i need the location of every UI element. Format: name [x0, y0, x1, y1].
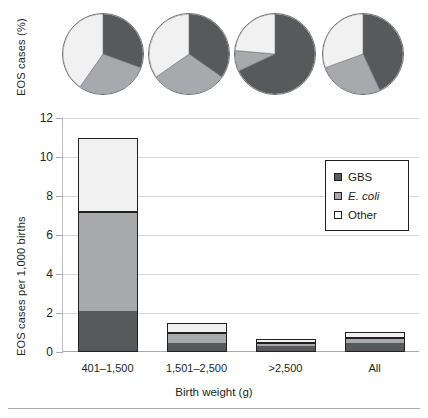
- x-tick-label: All: [368, 362, 380, 374]
- y-tick-label-6: 6: [46, 228, 53, 242]
- bar-stack: 1,501–2,500: [167, 323, 227, 352]
- bar-segment-other: [168, 324, 226, 333]
- bar-segment-gbs: [346, 343, 404, 351]
- x-tick-label: 1,501–2,500: [166, 362, 227, 374]
- bar-segment-ecoli: [168, 333, 226, 343]
- legend-label-gbs: GBS: [348, 171, 372, 183]
- legend-swatch-gbs: [334, 173, 342, 181]
- bar-chart-plot: 024681012 401–1,5001,501–2,500>2,500All: [62, 118, 419, 352]
- footer-rule: [8, 408, 420, 409]
- y-tick-label-12: 12: [40, 111, 53, 125]
- x-tick-label: >2,500: [269, 362, 303, 374]
- bar-stack: >2,500: [256, 339, 316, 352]
- x-tick-label: 401–1,500: [82, 362, 134, 374]
- y-tick-10: [56, 157, 63, 158]
- legend: GBSE. coliOther: [325, 160, 409, 231]
- bar-segment-gbs: [168, 343, 226, 351]
- bar-y-axis-title: EOS cases per 1,000 births: [15, 216, 27, 356]
- bar-stack: All: [345, 332, 405, 352]
- pie-slice-other: [235, 14, 275, 54]
- bar-segment-gbs: [257, 346, 315, 351]
- y-tick-label-10: 10: [40, 150, 53, 164]
- legend-item-gbs: GBS: [334, 167, 402, 186]
- legend-item-ecoli: E. coli: [334, 186, 402, 205]
- y-tick-12: [56, 118, 63, 119]
- pie-chart-row: [58, 10, 418, 100]
- bar-x-axis-title: Birth weight (g): [0, 386, 428, 398]
- legend-label-ecoli: E. coli: [348, 190, 379, 202]
- pie-chart-3: [322, 13, 404, 95]
- y-tick-2: [56, 313, 63, 314]
- legend-swatch-ecoli: [334, 192, 342, 200]
- legend-label-other: Other: [348, 209, 377, 221]
- pie-svg: [323, 14, 403, 94]
- legend-item-other: Other: [334, 205, 402, 224]
- pie-axis-title: EOS cases (%): [15, 18, 27, 96]
- y-tick-label-2: 2: [46, 306, 53, 320]
- legend-swatch-other: [334, 211, 342, 219]
- pie-svg: [149, 14, 229, 94]
- y-tick-4: [56, 274, 63, 275]
- pie-chart-0: [62, 13, 144, 95]
- pie-chart-1: [148, 13, 230, 95]
- bar-stack: 401–1,500: [78, 138, 138, 353]
- gridline-12: [63, 118, 419, 119]
- figure-eos-cases: EOS cases (%) EOS cases per 1,000 births…: [0, 0, 428, 418]
- y-tick-6: [56, 235, 63, 236]
- y-tick-label-0: 0: [46, 345, 53, 359]
- y-tick-label-8: 8: [46, 189, 53, 203]
- pie-chart-2: [234, 13, 316, 95]
- y-tick-0: [56, 352, 63, 353]
- bar-segment-other: [79, 139, 137, 213]
- bar-segment-gbs: [79, 311, 137, 351]
- pie-svg: [235, 14, 315, 94]
- y-tick-label-4: 4: [46, 267, 53, 281]
- pie-svg: [63, 14, 143, 94]
- bar-segment-ecoli: [79, 212, 137, 311]
- y-tick-8: [56, 196, 63, 197]
